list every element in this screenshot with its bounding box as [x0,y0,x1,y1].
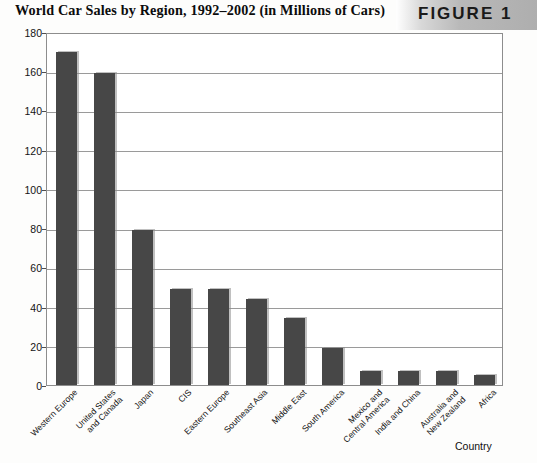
y-tick-label: 60 [2,262,42,274]
y-tick-mark [42,33,46,34]
y-tick-mark [42,347,46,348]
bar [208,289,229,385]
bar [398,371,419,385]
y-tick-label: 160 [2,66,42,78]
bar [56,52,77,385]
x-axis-labels: Western EuropeUnited States and CanadaJa… [46,388,503,458]
bar [360,371,381,385]
y-tick-label: 20 [2,341,42,353]
x-axis-title: Country [455,440,492,452]
figure-number-label: FIGURE 1 [418,4,512,24]
bar [436,371,457,385]
y-tick-label: 120 [2,145,42,157]
bar [246,299,267,385]
y-tick-label: 180 [2,27,42,39]
y-tick-label: 140 [2,105,42,117]
bar [170,289,191,385]
bar [474,375,495,385]
figure-root: FIGURE 1 World Car Sales by Region, 1992… [0,0,537,463]
y-tick-mark [42,268,46,269]
y-tick-mark [42,111,46,112]
y-tick-mark [42,386,46,387]
y-tick-label: 0 [2,380,42,392]
y-tick-label: 100 [2,184,42,196]
bar-series [47,34,502,385]
plot-area [46,33,503,386]
bar [322,348,343,385]
bar [284,318,305,385]
y-tick-mark [42,72,46,73]
bar [94,73,115,385]
y-tick-mark [42,308,46,309]
y-tick-mark [42,151,46,152]
y-tick-label: 80 [2,223,42,235]
y-tick-mark [42,229,46,230]
bar [132,230,153,385]
y-tick-label: 40 [2,302,42,314]
y-tick-mark [42,190,46,191]
chart-title: World Car Sales by Region, 1992–2002 (in… [0,2,400,19]
